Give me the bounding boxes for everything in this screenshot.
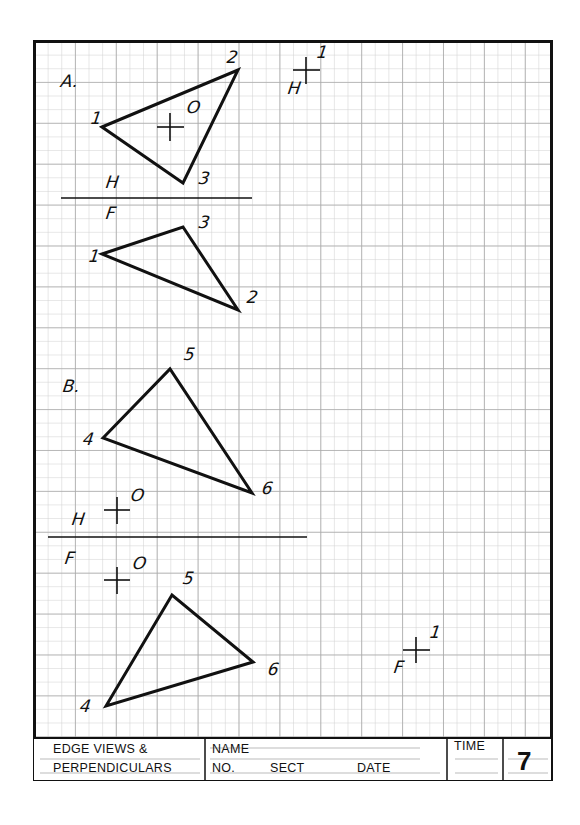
plane-f-label-a: F: [105, 205, 117, 222]
sheet-number: 7: [517, 748, 531, 774]
point-o-label-b-front: O: [132, 555, 148, 572]
number-field-label: NO.: [212, 762, 235, 775]
title-line-1: EDGE VIEWS &: [53, 743, 148, 756]
point-o-label-b-top: O: [130, 487, 146, 504]
title-line-2: PERPENDICULARS: [53, 762, 172, 775]
time-field-label: TIME: [454, 740, 485, 753]
plane-h-label-b: H: [71, 511, 86, 528]
point-6-label-b-top: 6: [261, 480, 274, 497]
plane-h-label-a: H: [105, 174, 120, 191]
plane-h-marker-label: H: [287, 80, 302, 97]
point-6-label-b-front: 6: [267, 661, 280, 678]
section-field-label: SECT: [270, 762, 305, 775]
problem-a-label: A.: [60, 73, 80, 90]
drawing-sheet: A. 1 2 3 O H F 1 3 2 1 H B. 5 4 6 O H F …: [0, 0, 580, 825]
plane-f-label-b: F: [64, 550, 76, 567]
problem-b-label: B.: [62, 378, 81, 395]
date-field-label: DATE: [357, 762, 391, 775]
grid-paper: [34, 41, 551, 738]
point-o-label-a-top: O: [186, 99, 202, 116]
plane-f-marker-label: F: [393, 659, 405, 676]
name-field-label: NAME: [212, 743, 249, 756]
